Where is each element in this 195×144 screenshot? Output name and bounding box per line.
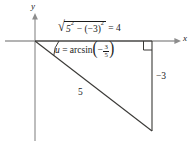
right-angle-marker (144, 41, 153, 50)
radicand: 52 − (−3)2 (64, 21, 106, 35)
angle-expression: u = arcsin(−35) (55, 43, 114, 58)
fraction-denominator: 5 (103, 51, 108, 59)
opposite-side-label: −3 (156, 72, 166, 82)
radical-expression: √ 52 − (−3)2 (58, 21, 106, 35)
x-axis-arrowhead (174, 38, 181, 44)
radicand-exponent-1: 2 (71, 19, 74, 26)
radical-sign-icon: √ (58, 19, 65, 35)
argument-sign: − (98, 45, 103, 55)
radicand-operator: − (77, 24, 82, 34)
y-axis-arrowhead (32, 13, 38, 20)
adjacent-side-expression: √ 52 − (−3)2 = 4 (58, 21, 121, 35)
radicand-base-2: (−3) (84, 24, 100, 34)
radicand-exponent-2: 2 (101, 19, 104, 26)
right-paren: ) (109, 42, 114, 57)
adjacent-result: 4 (116, 23, 121, 33)
x-axis-label: x (183, 34, 187, 43)
arcsin-function: arcsin (70, 45, 93, 55)
radicand-base-1: 5 (66, 24, 71, 34)
y-axis-label: y (31, 2, 35, 11)
argument-fraction: 35 (103, 44, 108, 59)
hypotenuse-label: 5 (78, 88, 83, 98)
figure-canvas: y x √ 52 − (−3)2 = 4 u = arcsin(−35) −3 … (0, 0, 195, 144)
left-paren: ( (93, 42, 98, 57)
fraction-numerator: 3 (103, 44, 108, 51)
